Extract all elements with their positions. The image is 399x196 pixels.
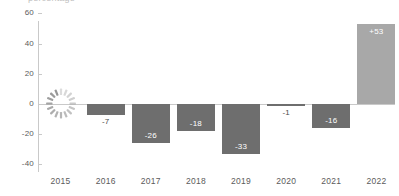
y-axis-tick-label-text: 20 — [0, 69, 34, 78]
y-axis-tick-label: -20 — [0, 129, 34, 139]
y-axis-tick-label-text: -40 — [0, 159, 34, 168]
bar-column[interactable]: -72016 — [83, 0, 128, 196]
bar[interactable] — [357, 24, 395, 104]
bar-column[interactable]: -12020 — [264, 0, 309, 196]
bar-value-label: -16 — [325, 116, 337, 125]
y-axis-tick-label: 40 — [0, 39, 34, 49]
bar-value-label: -1 — [282, 108, 290, 117]
x-axis-tick-label: 2016 — [96, 176, 116, 186]
bar-value-label: -7 — [102, 117, 110, 126]
bar-value-label: +53 — [369, 27, 383, 36]
bar-chart: percentage 6040200-20-40 2015-72016-2620… — [0, 0, 399, 196]
x-axis-tick-label: 2022 — [366, 176, 386, 186]
bar-column[interactable]: 2015 — [38, 0, 83, 196]
bar-column[interactable]: -332019 — [219, 0, 264, 196]
x-axis-tick-label: 2018 — [186, 176, 206, 186]
bar-column[interactable]: +532022 — [354, 0, 399, 196]
y-axis-tick-label-text: 40 — [0, 39, 34, 48]
bar-value-label: -33 — [235, 142, 247, 151]
x-axis-tick-label: 2015 — [51, 176, 71, 186]
bar[interactable] — [87, 104, 125, 115]
y-axis-tick-label: 20 — [0, 69, 34, 79]
x-axis-tick-label: 2017 — [141, 176, 161, 186]
bar-value-label: -18 — [190, 119, 202, 128]
bar-column[interactable]: -182018 — [173, 0, 218, 196]
bar[interactable] — [267, 104, 305, 106]
loading-spinner-icon — [45, 88, 76, 119]
bar-column[interactable]: -262017 — [128, 0, 173, 196]
bar-value-label: -26 — [145, 131, 157, 140]
y-axis-tick-label-text: 60 — [0, 8, 34, 17]
y-axis-tick-label: 0 — [0, 99, 34, 109]
plot-area: 2015-72016-262017-182018-332019-12020-16… — [38, 0, 399, 196]
y-axis-tick-label: 60 — [0, 8, 34, 18]
x-axis-tick-label: 2020 — [276, 176, 296, 186]
x-axis-tick-label: 2019 — [231, 176, 251, 186]
y-axis-tick-label: -40 — [0, 159, 34, 169]
y-axis-tick-label-text: -20 — [0, 129, 34, 138]
y-axis-tick-label-text: 0 — [0, 99, 34, 108]
x-axis-tick-label: 2021 — [321, 176, 341, 186]
bar-column[interactable]: -162021 — [309, 0, 354, 196]
